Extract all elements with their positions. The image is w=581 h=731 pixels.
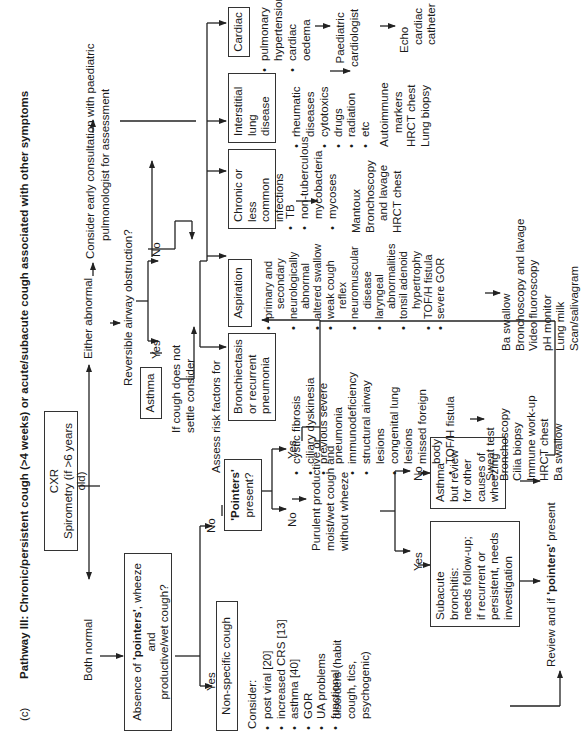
box-line: Interstitial bbox=[232, 80, 246, 136]
list-continuation: diseases bbox=[304, 92, 318, 137]
interstitial-tests: AutoimmunemarkersHRCT chestLung biopsy bbox=[378, 82, 432, 147]
if-cough-not-settle-line2: settle consider bbox=[184, 359, 198, 433]
bronchiectasis-risk-list: cystic fibrosis ciliary dyskinesia previ… bbox=[290, 378, 331, 476]
purulent-yes: Yes bbox=[412, 552, 426, 571]
aspiration-box: Aspiration bbox=[228, 259, 252, 327]
bronchiectasis-risk-list-3: congenital lung bbox=[388, 387, 402, 476]
list-item: cystic fibrosis bbox=[290, 378, 304, 476]
cxr-label: CXR bbox=[48, 418, 62, 544]
bronchiectasis-tests: Sweat testBronchoscopyCilia biopsyImmune… bbox=[484, 395, 565, 481]
non-specific-cont-1: disorders (habit bbox=[331, 640, 345, 719]
test-item: Bronchoscopy bbox=[364, 160, 378, 233]
absence-question-box: Absence of 'pointers', wheeze and produc… bbox=[124, 553, 172, 731]
list-item: cardiac bbox=[286, 24, 300, 73]
list-continuation: lesions bbox=[374, 428, 388, 464]
test-item: HRCT chest bbox=[538, 395, 552, 481]
both-normal-label: Both normal bbox=[82, 619, 96, 681]
chronic-infections-box: Chronic or less common infections bbox=[228, 149, 276, 229]
review-post: present bbox=[545, 502, 557, 544]
list-item: UA problems bbox=[315, 619, 329, 731]
list-item: neuromuscular bbox=[348, 244, 360, 331]
list-item: altered swallow bbox=[311, 244, 323, 331]
list-continuation: lesions bbox=[402, 428, 416, 464]
aspiration-risk-list: primary and secondary neurologically abn… bbox=[262, 244, 447, 331]
test-item: Echo bbox=[398, 3, 412, 53]
list-item: disease bbox=[361, 244, 373, 331]
consult-line2: pulmonologist for assessment bbox=[99, 89, 113, 241]
test-item: Lung milk bbox=[554, 219, 568, 351]
test-item: Autoimmune bbox=[378, 82, 392, 147]
reversible-question: Reversible airway obstruction? bbox=[122, 229, 136, 386]
list-item: reflex bbox=[336, 244, 348, 331]
list-item: mycoses bbox=[326, 174, 340, 231]
review-pointers: 'pointers' bbox=[545, 544, 557, 595]
list-item: weak cough bbox=[324, 244, 336, 331]
bronchiectasis-box: Bronchiectasis or recurrent pneumonia bbox=[228, 333, 276, 421]
list-item: TB bbox=[284, 137, 298, 231]
test-item: Bronchoscopy bbox=[498, 395, 512, 481]
box-line: disease bbox=[259, 80, 273, 136]
list-item: structural airway bbox=[360, 372, 374, 476]
figure-label: (c) bbox=[18, 708, 32, 721]
test-item: pH monitor bbox=[541, 219, 555, 351]
test-item: Sweat test bbox=[484, 395, 498, 481]
reversible-yes: Yes bbox=[150, 340, 164, 359]
cardiac-risk-list: pulmonary bbox=[258, 7, 272, 73]
cardiac-risk-list-2: cardiac bbox=[286, 24, 300, 73]
list-item: radiation bbox=[345, 87, 359, 150]
non-specific-cough-box: Non-specific cough bbox=[216, 601, 238, 731]
list-item: asthma [40] bbox=[288, 619, 302, 731]
asthma-box: Asthma bbox=[140, 367, 162, 419]
list-item: laryngeal bbox=[373, 244, 385, 331]
bronchiectasis-risk-list-5: TOF/H fistula bbox=[444, 396, 458, 476]
test-item: Mantoux bbox=[350, 160, 364, 233]
test-item: cardiac bbox=[412, 3, 426, 53]
list-item: cytotoxics bbox=[318, 87, 332, 150]
subacute-bronchitis-box: Subacute bronchitis: needs follow-up; if… bbox=[430, 521, 520, 627]
test-item: catheter bbox=[425, 3, 439, 53]
consult-line1: Consider early consultation with paediat… bbox=[84, 44, 98, 259]
aspiration-tests: Ba swallowBronchoscopy and lavageVideo f… bbox=[500, 219, 581, 351]
referral-line: cardiologist bbox=[348, 9, 362, 67]
absence-line2: productive/wet cough? bbox=[158, 560, 172, 724]
box-line: pneumonia bbox=[259, 340, 273, 414]
present-label: present? bbox=[243, 466, 257, 524]
cardiac-box: Cardiac bbox=[228, 7, 250, 57]
list-item: TOF/H fistula bbox=[422, 244, 434, 331]
box-line: investigation bbox=[502, 528, 516, 620]
list-item: non-tuberculous bbox=[298, 137, 312, 231]
box-line: lung bbox=[246, 80, 260, 136]
list-item: hypertrophy bbox=[410, 244, 422, 331]
list-item: rheumatic bbox=[290, 87, 304, 150]
cardiac-referral: Paediatriccardiologist bbox=[334, 9, 361, 67]
if-cough-not-settle-line1: If cough does not bbox=[170, 345, 184, 433]
test-item: Cilia biopsy bbox=[511, 395, 525, 481]
non-specific-cont-3: psychogenic) bbox=[359, 651, 373, 719]
box-line: Chronic or bbox=[232, 156, 246, 222]
absence-no: No bbox=[205, 518, 219, 533]
test-item: Immune work-up bbox=[525, 395, 539, 481]
list-continuation: pneumonia bbox=[332, 407, 346, 464]
interstitial-risk-list-2: cytotoxics drugs radiation etc bbox=[318, 87, 372, 150]
list-continuation: hypertension bbox=[272, 0, 286, 61]
list-continuation: body bbox=[430, 439, 444, 464]
chronic-infections-risk-list: TB non-tuberculous bbox=[284, 137, 311, 231]
pointers-present-box: 'Pointers' present? bbox=[224, 459, 262, 531]
box-line: Subacute bbox=[434, 528, 448, 620]
interstitial-risk-list: rheumatic bbox=[290, 87, 304, 150]
list-item: drugs bbox=[332, 87, 346, 150]
box-line: or recurrent bbox=[246, 340, 260, 414]
list-item: neurologically bbox=[287, 244, 299, 331]
cxr-spirometry-box: CXR Spirometry (if >6 years old) bbox=[44, 411, 78, 551]
test-item: markers bbox=[392, 82, 406, 147]
non-specific-cont-2: cough, tics, bbox=[345, 661, 359, 719]
list-item: post viral [20] bbox=[261, 619, 275, 731]
bronchiectasis-risk-list-4: missed foreign bbox=[416, 389, 430, 476]
box-line: needs follow-up; bbox=[461, 528, 475, 620]
test-item: Video fluoroscopy bbox=[527, 219, 541, 351]
list-item: GOR bbox=[302, 619, 316, 731]
list-item: secondary bbox=[274, 244, 286, 331]
spirometry-label: Spirometry (if >6 years old) bbox=[62, 418, 89, 544]
cardiac-tests: Echocardiaccatheter bbox=[398, 3, 439, 53]
